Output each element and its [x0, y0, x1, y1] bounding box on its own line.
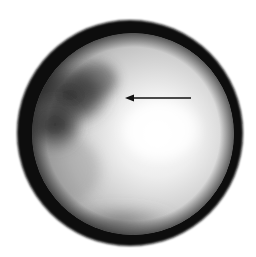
scene — [0, 0, 256, 257]
microscopy-image — [0, 0, 256, 257]
